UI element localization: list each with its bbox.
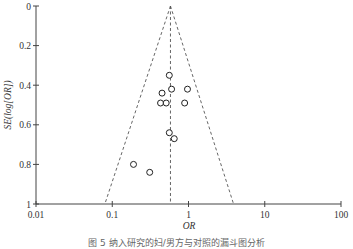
data-point xyxy=(159,90,165,96)
y-tick-label: 0.8 xyxy=(19,160,31,170)
x-tick-label: 0.01 xyxy=(28,210,45,220)
data-point xyxy=(147,169,153,175)
data-point xyxy=(163,100,169,106)
data-points xyxy=(131,72,191,175)
data-point xyxy=(166,130,172,136)
data-point xyxy=(171,136,177,142)
x-tick-label: 0.1 xyxy=(106,210,118,220)
x-axis-title: OR xyxy=(183,221,196,231)
x-tick-label: 1 xyxy=(186,210,191,220)
data-point xyxy=(184,86,190,92)
y-tick-label: 0.6 xyxy=(19,120,31,130)
y-axis-title: SE(log[OR]) xyxy=(3,80,14,129)
figure-caption: 图 5 纳入研究的妇/男方与对照的漏斗图分析 xyxy=(0,236,353,249)
axes: 0.010.111010000.20.40.60.81 xyxy=(19,2,348,221)
x-tick-label: 10 xyxy=(260,210,270,220)
funnel-lines xyxy=(105,6,234,204)
data-point xyxy=(169,86,175,92)
y-tick-label: 1 xyxy=(26,200,31,210)
y-tick-label: 0.4 xyxy=(19,81,31,91)
data-point xyxy=(166,72,172,78)
data-point xyxy=(131,161,137,167)
data-point xyxy=(182,100,188,106)
data-point xyxy=(158,100,164,106)
y-tick-label: 0 xyxy=(26,2,31,12)
y-tick-label: 0.2 xyxy=(19,41,31,51)
x-tick-label: 100 xyxy=(334,210,349,220)
